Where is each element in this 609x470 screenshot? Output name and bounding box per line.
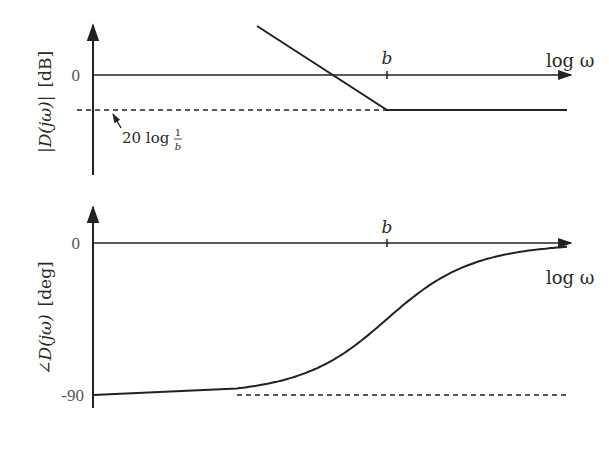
magnitude-ylabel: |D(jω)|[dB] (35, 51, 55, 153)
phase-xlabel: log ω (546, 267, 595, 288)
phase-minus90-label: -90 (61, 386, 84, 405)
svg-text:∠D(jω)[deg]: ∠D(jω)[deg] (35, 261, 55, 374)
annotation-text: 20 log (122, 129, 170, 147)
magnitude-b-label: b (382, 48, 393, 68)
phase-plot: 0 -90 b log ω ∠D(jω)[deg] (35, 207, 595, 408)
phase-zero-label: 0 (72, 234, 81, 253)
magnitude-ylabel-main: |D(jω)| (35, 96, 55, 153)
magnitude-zero-label: 0 (72, 66, 81, 85)
annotation-arrow (113, 114, 121, 128)
phase-ylabel: ∠D(jω)[deg] (35, 261, 55, 374)
phase-b-label: b (382, 217, 393, 237)
magnitude-ylabel-unit: [dB] (35, 51, 55, 88)
phase-series-phase (93, 247, 567, 395)
svg-text:|D(jω)|[dB]: |D(jω)|[dB] (35, 51, 55, 153)
annotation-frac-num: 1 (175, 127, 181, 138)
annotation-frac-den: b (175, 141, 181, 152)
phase-ylabel-unit: [deg] (35, 261, 55, 306)
bode-plot: 0 b log ω |D(jω)|[dB] 20 log 1 b 0 -90 b… (0, 0, 609, 470)
magnitude-plot: 0 b log ω |D(jω)|[dB] 20 log 1 b (35, 25, 595, 175)
magnitude-series-magnitude-asymptote (257, 26, 567, 110)
magnitude-xlabel: log ω (546, 50, 595, 71)
phase-ylabel-main: ∠D(jω) (35, 314, 55, 374)
